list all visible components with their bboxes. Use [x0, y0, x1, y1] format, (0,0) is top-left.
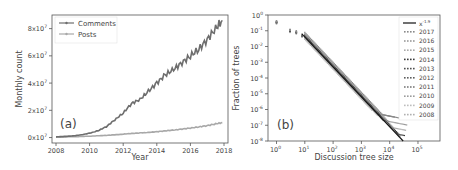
- scatter-point: [330, 59, 331, 60]
- scatter-point: [338, 68, 339, 69]
- legend-marker-year: [407, 49, 409, 51]
- x-tick-label: 105: [411, 145, 422, 154]
- scatter-point: [388, 121, 389, 122]
- scatter-point: [355, 86, 356, 87]
- scatter-point: [373, 105, 374, 106]
- legend-marker-year: [410, 31, 412, 33]
- x-tick-label: 2016: [182, 147, 199, 155]
- legend-label-year: 2014: [419, 56, 434, 63]
- scatter-point: [370, 101, 371, 102]
- legend-marker-year: [410, 105, 412, 107]
- legend-a: Comments Posts: [55, 17, 117, 43]
- scatter-point: [321, 50, 322, 51]
- scatter-point: [309, 37, 310, 38]
- legend-marker-year: [410, 49, 412, 51]
- scatter-point: [357, 88, 358, 89]
- scatter-point: [396, 128, 397, 129]
- scatter-point: [395, 117, 396, 118]
- x-tick-label: 2010: [81, 147, 98, 155]
- scatter-point: [319, 47, 320, 48]
- scatter-point: [400, 123, 401, 124]
- scatter-point: [404, 135, 405, 136]
- legend-marker-year: [407, 59, 409, 61]
- legend-marker-year: [404, 68, 406, 70]
- scatter-point: [364, 95, 365, 96]
- legend-marker-year: [413, 95, 415, 97]
- legend-marker-year: [404, 114, 406, 116]
- scatter-point: [394, 122, 395, 123]
- scatter-point: [389, 123, 390, 124]
- scatter-point: [325, 53, 326, 54]
- scatter-point: [403, 129, 404, 130]
- y-tick-label: 6x107: [28, 51, 47, 60]
- scatter-point: [366, 98, 367, 99]
- figure: 0x1072x1074x1076x1078x107 20082010201220…: [0, 0, 458, 170]
- scatter-point: [276, 20, 278, 22]
- panel-a-monthly-counts: 0x1072x1074x1076x1078x107 20082010201220…: [15, 15, 232, 162]
- scatter-point: [333, 62, 334, 63]
- scatter-point: [374, 106, 375, 107]
- scatter-point: [389, 121, 390, 122]
- y-tick-label: 2x107: [28, 106, 47, 115]
- scatter-point: [376, 107, 377, 108]
- y-tick-label: 10-6: [250, 105, 263, 114]
- scatter-point: [328, 57, 329, 58]
- x-tick-label: 100: [270, 145, 281, 154]
- legend-label-posts: Posts: [78, 31, 97, 39]
- scatter-point: [311, 39, 312, 40]
- legend-marker-year: [413, 114, 415, 116]
- scatter-point: [392, 127, 393, 128]
- legend-label-year: 2010: [419, 92, 434, 99]
- scatter-point: [360, 90, 361, 91]
- scatter-point: [395, 130, 396, 131]
- scatter-point: [335, 64, 336, 65]
- x-axis-label-b: Discussion tree size: [314, 153, 393, 162]
- scatter-point: [388, 115, 389, 116]
- scatter-point: [323, 52, 324, 53]
- scatter-point: [403, 135, 404, 136]
- scatter-point: [403, 124, 404, 125]
- scatter-point: [352, 82, 353, 83]
- scatter-point: [363, 94, 364, 95]
- scatter-point: [398, 133, 399, 134]
- scatter-point: [340, 70, 341, 71]
- scatter-point: [389, 116, 390, 117]
- scatter-point: [345, 75, 346, 76]
- legend-marker-year: [404, 40, 406, 42]
- scatter-point: [346, 76, 347, 77]
- panel-label-b: (b): [277, 118, 294, 132]
- legend-marker-year: [413, 68, 415, 70]
- scatter-point: [354, 84, 355, 85]
- scatter-point: [381, 113, 382, 114]
- legend-label-year: 2012: [419, 74, 434, 81]
- scatter-point: [405, 124, 406, 125]
- legend-marker-year: [407, 31, 409, 33]
- x-tick-label: 101: [298, 145, 309, 154]
- scatter-point: [344, 74, 345, 75]
- scatter-point: [337, 66, 338, 67]
- y-axis-ticks-a: 0x1072x1074x1076x1078x107: [28, 24, 52, 142]
- scatter-point: [397, 132, 398, 133]
- legend-marker-year: [410, 68, 412, 70]
- legend-label-year: 2015: [419, 46, 434, 53]
- legend-label-comments: Comments: [78, 20, 116, 28]
- scatter-point: [331, 60, 332, 61]
- scatter-point: [398, 123, 399, 124]
- legend-marker-year: [407, 86, 409, 88]
- scatter-point: [382, 114, 383, 115]
- scatter-point: [402, 129, 403, 130]
- y-tick-label: 10-8: [250, 137, 263, 146]
- legend-marker-year: [404, 105, 406, 107]
- legend-marker-year: [410, 59, 412, 61]
- scatter-point: [362, 93, 363, 94]
- legend-marker-comments: [65, 22, 67, 24]
- legend-marker-year: [413, 31, 415, 33]
- x-tick-label: 2014: [149, 147, 166, 155]
- legend-marker-year: [404, 95, 406, 97]
- scatter-point: [390, 121, 391, 122]
- legend-marker-year: [413, 105, 415, 107]
- scatter-point: [392, 122, 393, 123]
- legend-marker-year: [404, 77, 406, 79]
- scatter-point: [399, 129, 400, 130]
- legend-marker-year: [407, 105, 409, 107]
